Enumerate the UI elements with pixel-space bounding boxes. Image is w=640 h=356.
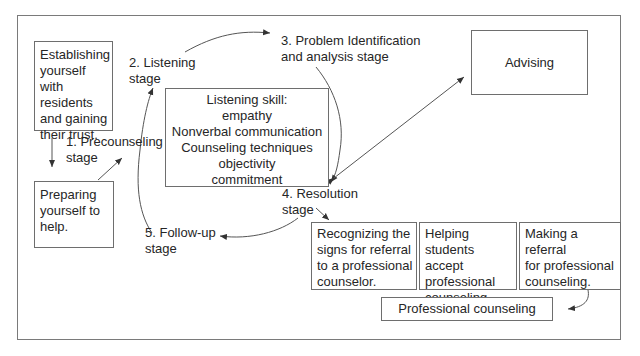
text-line: and gaining [40, 111, 112, 127]
text-line: 2. Listening [129, 55, 196, 71]
stage-precounseling: 1. Precounseling stage [66, 134, 163, 166]
text-line: Listening skill: [166, 92, 328, 108]
professional-counseling-box: Professional counseling [381, 297, 553, 321]
professional-counseling-label: Professional counseling [398, 301, 535, 316]
text-line: Helping [425, 226, 516, 242]
arrow-to-problem-identification [185, 32, 270, 52]
text-line: for professional [525, 258, 620, 274]
preparing-box: Preparing yourself to help. [34, 181, 114, 248]
text-line: objectivity [166, 156, 328, 172]
text-line: counseling. [525, 274, 620, 290]
text-line: residents [40, 95, 112, 111]
text-line: stage [282, 202, 358, 218]
text-line: and analysis stage [281, 49, 420, 65]
text-line: help. [40, 219, 113, 235]
text-line: stage [66, 150, 163, 166]
text-line: 4. Resolution [282, 186, 358, 202]
text-line: 5. Follow-up [145, 225, 216, 241]
text-line: Nonverbal communication [166, 124, 328, 140]
arrow-to-professional-counseling [568, 290, 588, 309]
stage-resolution: 4. Resolution stage [282, 186, 358, 218]
text-line: professional [425, 274, 516, 290]
text-line: 3. Problem Identification [281, 33, 420, 49]
text-line: Preparing [40, 187, 113, 203]
making-referral-box: Making a referral for professional couns… [519, 222, 621, 290]
text-line: empathy [166, 108, 328, 124]
arrow-resolution-advising [334, 77, 464, 178]
listening-skill-box: Listening skill: empathy Nonverbal commu… [165, 88, 329, 187]
stage-problem-identification: 3. Problem Identification and analysis s… [281, 33, 420, 65]
text-line: referral [525, 242, 620, 258]
stage-follow-up: 5. Follow-up stage [145, 225, 216, 257]
recognizing-box: Recognizing the signs for referral to a … [311, 222, 417, 290]
advising-box: Advising [471, 30, 588, 95]
arrow-to-follow-up [220, 218, 298, 237]
text-line: stage [129, 71, 196, 87]
text-line: yourself to [40, 203, 113, 219]
helping-box: Helping students accept professional cou… [419, 222, 517, 290]
text-line: Counseling techniques [166, 140, 328, 156]
text-line: Establishing [40, 47, 112, 63]
text-line: students accept [425, 242, 516, 274]
text-line: stage [145, 241, 216, 257]
establishing-box: Establishing yourself with residents and… [34, 41, 113, 131]
text-line: to a professional [317, 258, 416, 274]
text-line: counselor. [317, 274, 416, 290]
text-line: 1. Precounseling [66, 134, 163, 150]
text-line: signs for referral [317, 242, 416, 258]
stage-listening: 2. Listening stage [129, 55, 196, 87]
text-line: Making a [525, 226, 620, 242]
text-line: Recognizing the [317, 226, 416, 242]
text-line: yourself with [40, 63, 112, 95]
advising-label: Advising [505, 55, 554, 70]
